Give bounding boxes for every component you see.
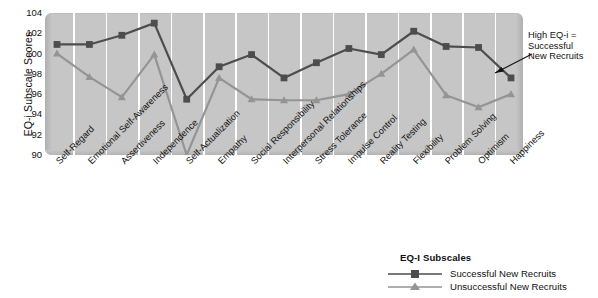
- annotation-high-eqi: High EQ-i = Successful New Recruits: [528, 30, 598, 62]
- y-tick-label: 94: [31, 109, 42, 119]
- data-point-marker: [281, 75, 288, 82]
- legend-item-label: Unsuccessful New Recruits: [450, 281, 567, 292]
- legend-item[interactable]: Successful New Recruits: [386, 267, 598, 280]
- data-point-marker: [215, 74, 223, 81]
- data-point-marker: [410, 28, 417, 35]
- y-tick-label: 92: [31, 130, 42, 140]
- eq-i-subscale-line-chart: EQ-i Subscale Scores 1041021009896949290…: [0, 0, 598, 298]
- legend-triangle-marker-icon: [386, 280, 444, 293]
- data-point-marker: [54, 41, 61, 48]
- data-point-marker: [507, 90, 515, 97]
- data-point-marker: [410, 46, 418, 53]
- legend-square-marker-icon: [386, 267, 444, 280]
- data-point-marker: [345, 45, 352, 52]
- y-tick-label: 98: [31, 69, 42, 79]
- data-point-marker: [150, 51, 158, 58]
- y-tick-label: 96: [31, 89, 42, 99]
- annotation-line-3: New Recruits: [528, 51, 598, 62]
- data-point-marker: [475, 44, 482, 51]
- annotation-line-1: High EQ-i =: [528, 30, 598, 41]
- legend-item[interactable]: Unsuccessful New Recruits: [386, 280, 598, 293]
- data-point-marker: [378, 51, 385, 58]
- data-point-marker: [183, 96, 190, 103]
- legend: EQ-I Subscales Successful New RecruitsUn…: [378, 252, 598, 293]
- x-axis-tick-labels: Self-RegardEmotional Self-AwarenessAsser…: [0, 155, 598, 255]
- y-tick-label: 100: [26, 49, 42, 59]
- data-point-marker: [86, 41, 93, 48]
- legend-item-label: Successful New Recruits: [450, 268, 556, 279]
- data-point-marker: [118, 32, 125, 39]
- data-point-marker: [313, 59, 320, 66]
- legend-items: Successful New RecruitsUnsuccessful New …: [378, 267, 598, 293]
- data-point-marker: [53, 50, 61, 57]
- data-point-marker: [443, 43, 450, 50]
- annotation-line-2: Successful: [528, 41, 598, 52]
- data-point-marker: [151, 20, 158, 27]
- y-tick-label: 102: [26, 28, 42, 38]
- data-point-marker: [216, 63, 223, 70]
- data-point-marker: [248, 51, 255, 58]
- legend-title: EQ-I Subscales: [400, 252, 598, 263]
- y-tick-label: 104: [26, 8, 42, 18]
